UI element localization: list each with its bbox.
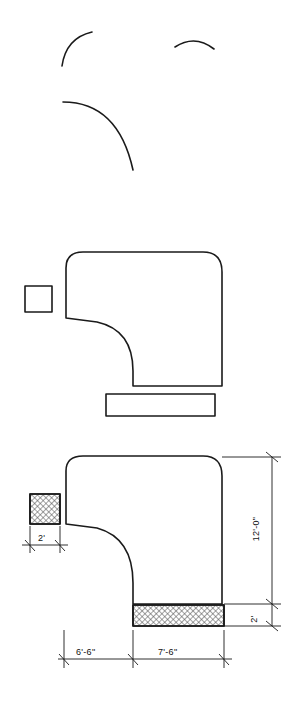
technical-drawing-svg [0,0,296,715]
view-top-sketch-arcs [62,32,214,170]
rect-below-middle [106,394,215,416]
elbow-outline-bottom [66,456,222,604]
dim-label-width-2-left: 2' [38,533,45,543]
elbow-outline-middle [66,252,222,386]
arc-small-right [175,41,214,49]
arc-large-quarter [63,102,133,170]
grille-bottom-cross [133,605,224,626]
drawing-sheet: 12'-0" 2' 2' 6'-6" 7'-6" [0,0,296,715]
dim-label-height-2-right: 2' [249,615,259,622]
view-middle-elevation [25,252,222,416]
dim-label-height-12-0: 12'-0" [251,517,261,542]
dim-label-width-6-6: 6'-6" [76,647,95,657]
dim-label-width-7-6: 7'-6" [158,647,177,657]
arc-small-left [62,32,92,66]
square-left-middle [25,286,52,312]
grille-left-cross [30,494,60,524]
view-bottom-elevation [30,456,224,626]
dimension-lines [22,452,281,668]
